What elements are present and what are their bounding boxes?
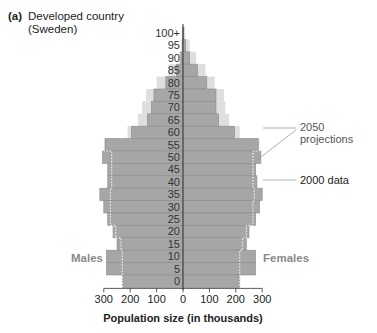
age-label: 50	[168, 151, 180, 163]
population-pyramid-chart: 100+959085807570656055504540353025201510…	[0, 0, 377, 333]
x-axis: 3002001000100200300	[95, 288, 272, 305]
data-bar-female	[183, 114, 219, 126]
data-2000-bars	[100, 27, 262, 287]
age-label: 55	[168, 139, 180, 151]
females-label: Females	[263, 252, 309, 264]
data-bar-female	[183, 77, 207, 89]
x-tick-label: 0	[180, 293, 186, 305]
age-label: 75	[168, 89, 180, 101]
data-bar-female	[183, 275, 240, 287]
age-label: 40	[168, 176, 180, 188]
data-bar-female	[183, 238, 246, 250]
age-label: 100+	[155, 27, 180, 39]
data-bar-female	[183, 64, 198, 76]
data-bar-female	[183, 101, 216, 113]
data-bar-female	[183, 188, 262, 200]
data-bar-female	[183, 126, 234, 138]
data-annotation: 2000 data	[300, 174, 350, 186]
age-label: 15	[168, 238, 180, 250]
x-tick-label: 300	[95, 293, 113, 305]
males-label: Males	[71, 252, 103, 264]
age-label: 30	[168, 201, 180, 213]
age-label: 70	[168, 101, 180, 113]
data-bar-female	[183, 52, 190, 64]
data-bar-female	[183, 89, 216, 101]
age-label: 20	[168, 225, 180, 237]
age-label: 95	[168, 39, 180, 51]
age-label: 80	[168, 77, 180, 89]
data-bar-female	[183, 151, 261, 163]
data-bar-female	[183, 250, 256, 262]
age-label: 90	[168, 52, 180, 64]
data-bar-female	[183, 213, 256, 225]
x-tick-label: 200	[121, 293, 139, 305]
data-bar-female	[183, 176, 257, 188]
projection-leader-lower	[257, 130, 296, 160]
age-label: 65	[168, 114, 180, 126]
x-axis-label: Population size (in thousands)	[103, 312, 263, 324]
age-label: 0	[174, 275, 180, 287]
age-label: 25	[168, 213, 180, 225]
data-bar-female	[183, 201, 260, 213]
x-tick-label: 100	[200, 293, 218, 305]
data-bar-female	[183, 263, 256, 275]
data-bar-male	[106, 263, 183, 275]
data-bar-female	[183, 139, 258, 151]
age-label: 60	[168, 126, 180, 138]
x-tick-label: 300	[253, 293, 271, 305]
x-tick-label: 100	[147, 293, 165, 305]
projection-annotation-line2: projections	[300, 133, 354, 145]
age-label: 45	[168, 163, 180, 175]
age-label: 10	[168, 250, 180, 262]
age-label: 35	[168, 188, 180, 200]
data-bar-female	[183, 225, 249, 237]
data-bar-female	[183, 163, 256, 175]
x-tick-label: 200	[227, 293, 245, 305]
age-label: 5	[174, 263, 180, 275]
projection-annotation-line1: 2050	[300, 121, 324, 133]
age-label: 85	[168, 64, 180, 76]
